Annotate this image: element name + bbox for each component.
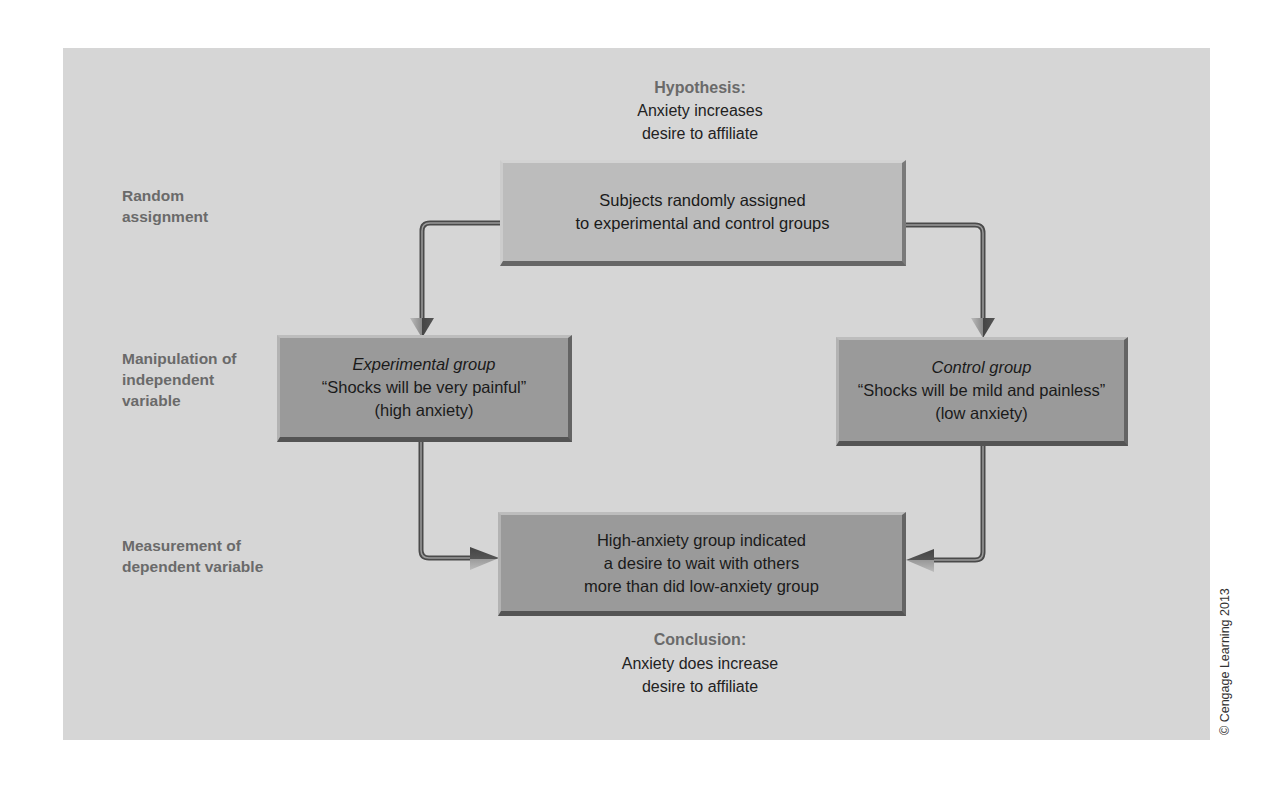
conclusion-title: Conclusion: xyxy=(580,630,820,650)
arrowhead-left xyxy=(906,549,934,572)
connector-assign-to-experimental xyxy=(422,223,500,322)
box-line: Subjects randomly assigned xyxy=(599,189,805,212)
box-experimental-group: Experimental group “Shocks will be very … xyxy=(277,335,572,442)
box-line: High-anxiety group indicated xyxy=(597,529,806,552)
box-line: to experimental and control groups xyxy=(575,212,829,235)
box-title: Experimental group xyxy=(352,353,495,376)
hypothesis-text: Anxiety increases desire to affiliate xyxy=(560,99,840,145)
copyright-notice: © Cengage Learning 2013 xyxy=(1218,588,1232,735)
hypothesis-title: Hypothesis: xyxy=(580,78,820,98)
box-line: a desire to wait with others xyxy=(604,552,799,575)
box-title: Control group xyxy=(932,356,1032,379)
hypothesis-line: desire to affiliate xyxy=(560,122,840,145)
label-measurement: Measurement of dependent variable xyxy=(122,535,263,577)
label-line: independent xyxy=(122,369,237,390)
conclusion-text: Anxiety does increase desire to affiliat… xyxy=(560,652,840,698)
label-line: Manipulation of xyxy=(122,348,237,369)
conclusion-line: Anxiety does increase xyxy=(560,652,840,675)
connector-experimental-to-measurement xyxy=(421,442,482,558)
label-random-assignment: Random assignment xyxy=(122,185,208,227)
label-line: Measurement of xyxy=(122,535,263,556)
box-control-group: Control group “Shocks will be mild and p… xyxy=(836,337,1128,446)
label-line: variable xyxy=(122,390,237,411)
box-line: “Shocks will be very painful” xyxy=(322,376,527,399)
conclusion-line: desire to affiliate xyxy=(560,675,840,698)
label-manipulation: Manipulation of independent variable xyxy=(122,348,237,411)
arrowhead-down-right xyxy=(971,318,995,338)
box-measurement: High-anxiety group indicated a desire to… xyxy=(498,512,906,616)
label-line: Random xyxy=(122,185,208,206)
label-line: assignment xyxy=(122,206,208,227)
box-line: more than did low-anxiety group xyxy=(584,575,819,598)
connector-control-to-measurement xyxy=(922,446,983,560)
arrowhead-right xyxy=(470,547,499,570)
box-line: (high anxiety) xyxy=(374,399,473,422)
box-line: (low anxiety) xyxy=(935,402,1028,425)
box-line: “Shocks will be mild and painless” xyxy=(858,379,1106,402)
label-line: dependent variable xyxy=(122,556,263,577)
hypothesis-line: Anxiety increases xyxy=(560,99,840,122)
connector-assign-to-control xyxy=(906,225,983,322)
box-random-assignment: Subjects randomly assigned to experiment… xyxy=(500,160,906,266)
